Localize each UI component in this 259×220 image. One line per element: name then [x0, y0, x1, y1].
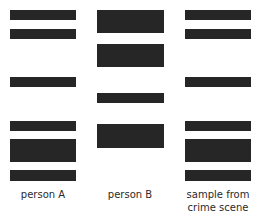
dna-band: [185, 29, 251, 39]
dna-band: [185, 139, 251, 162]
dna-band: [10, 29, 76, 39]
dna-band: [10, 121, 76, 131]
lane-label-person-b: person B: [85, 189, 175, 202]
dna-band: [97, 93, 164, 103]
lane-crime-scene: [185, 0, 251, 185]
dna-band: [10, 10, 76, 20]
lane-label-crime-scene: sample from crime scene: [173, 189, 259, 214]
dna-band: [185, 170, 251, 181]
dna-band: [185, 10, 251, 20]
dna-band: [10, 139, 76, 162]
dna-band: [97, 124, 164, 148]
dna-band: [185, 77, 251, 87]
dna-band: [97, 10, 164, 33]
dna-band: [10, 170, 76, 181]
lane-label-person-a: person A: [0, 189, 88, 202]
dna-band: [97, 44, 164, 67]
lane-person-a: [10, 0, 76, 185]
lane-person-b: [97, 0, 164, 185]
dna-band: [185, 121, 251, 131]
dna-band: [10, 77, 76, 87]
